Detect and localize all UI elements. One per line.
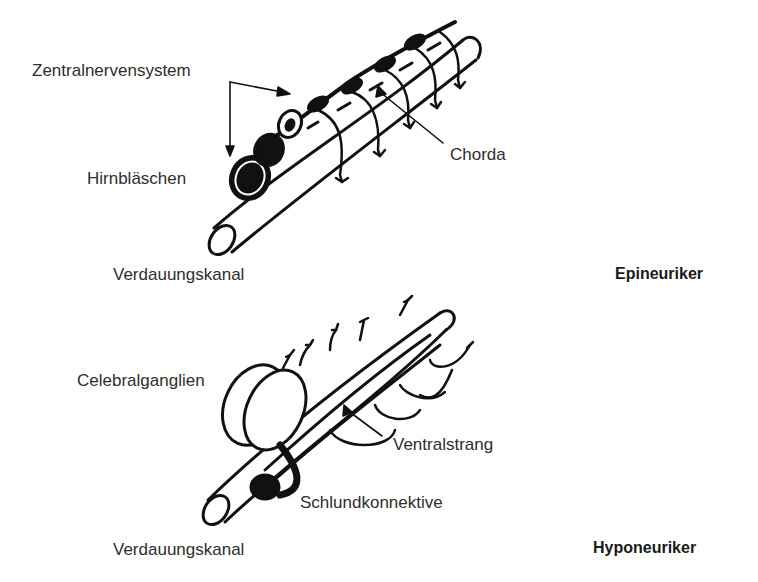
epineuriker-drawing	[204, 22, 481, 259]
label-hirnblaeschen: Hirnbläschen	[87, 170, 186, 187]
label-verdauungskanal-top: Verdauungskanal	[113, 266, 244, 283]
label-verdauungskanal-bottom: Verdauungskanal	[113, 541, 244, 558]
label-zentralnervensystem: Zentralnervensystem	[32, 62, 191, 79]
figure-title-epineuriker: Epineuriker	[615, 266, 703, 282]
cerebral-ganglia	[210, 354, 318, 460]
figure-title-hyponeuriker: Hyponeuriker	[593, 540, 696, 556]
label-ventralstrang: Ventralstrang	[393, 436, 493, 453]
label-chorda: Chorda	[450, 146, 506, 163]
label-schlundkonnektive: Schlundkonnektive	[300, 494, 443, 511]
brain-vesicles	[223, 107, 305, 206]
dorsal-branches	[283, 296, 412, 368]
label-celebralganglien: Celebralganglien	[77, 372, 205, 389]
